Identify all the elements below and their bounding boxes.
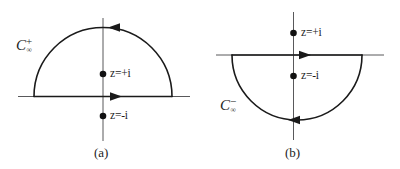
panel-b-pole-minus-i-label: z=-i: [301, 70, 319, 82]
panel-a-pole-minus-i-text: z=-i: [110, 109, 128, 121]
panel-b-real-axis-arrow: [299, 51, 311, 59]
panel-b-contour-base-letter: C: [220, 97, 230, 113]
panel-a-pole-minus-i-label: z=-i: [110, 110, 128, 122]
panel-a-pole-plus-i-text: z=+i: [110, 67, 130, 79]
panel-b-graphics: [216, 12, 384, 140]
figure-canvas: [0, 0, 400, 169]
panel-b-caption: (b): [285, 146, 300, 159]
panel-a-caption: (a): [94, 146, 108, 159]
panel-a-pole-minus-i-dot: [100, 113, 107, 120]
panel-a-pole-plus-i-dot: [100, 71, 107, 78]
panel-a-contour-superscript: +: [26, 35, 32, 47]
panel-a-contour-label: C∞+: [16, 36, 32, 54]
panel-b-pole-minus-i-dot: [290, 73, 297, 80]
panel-b-pole-minus-i-text: z=-i: [301, 69, 319, 81]
panel-b-contour-arc: [232, 55, 362, 120]
contour-integration-figure: C∞+ z=+i z=-i (a) C∞− z=+i z=-i (b): [0, 0, 400, 169]
panel-b-pole-plus-i-text: z=+i: [301, 26, 321, 38]
panel-a-real-axis-arrow: [110, 92, 122, 100]
panel-b-contour-superscript: −: [230, 95, 236, 107]
panel-a-pole-plus-i-label: z=+i: [110, 68, 130, 80]
panel-b-pole-plus-i-label: z=+i: [301, 27, 321, 39]
panel-b-contour-label: C∞−: [220, 96, 236, 114]
panel-a-contour-base-letter: C: [16, 37, 26, 53]
panel-b-pole-plus-i-dot: [290, 30, 297, 37]
panel-a-arc-apex-arrow: [108, 23, 120, 31]
panel-a-graphics: [18, 18, 190, 141]
